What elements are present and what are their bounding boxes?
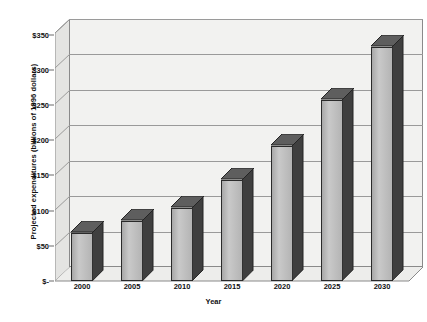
plot-area [55,19,423,281]
bar-2015[interactable] [221,169,243,281]
x-tick-label-2000: 2000 [74,282,91,291]
bar-2030[interactable] [371,36,393,281]
y-tick-label-350: $350 [5,30,49,39]
bar-2020[interactable] [271,135,293,281]
y-tickmark-250 [49,105,54,106]
bar-front-face [121,221,143,281]
y-tickmark-50 [49,245,54,246]
bar-2005[interactable] [121,210,143,281]
bar-front-face [271,146,293,281]
x-tick-label-2030: 2030 [374,282,391,291]
x-tick-label-2025: 2025 [324,282,341,291]
plot-side-wall [55,19,70,281]
y-tick-label-50: $50 [5,241,49,250]
bar-chart: Projected expenditures (billions of 1996… [0,0,427,322]
x-tick-label-2020: 2020 [274,282,291,291]
bar-2010[interactable] [171,197,193,281]
y-tickmark-200 [49,140,54,141]
y-tick-label-200: $200 [5,136,49,145]
bar-front-face [71,233,93,281]
y-tick-label-150: $150 [5,171,49,180]
y-axis-tick-labels: $- $50 $100 $150 $200 $250 $300 $350 [0,0,49,322]
gridline-350 [70,19,423,20]
x-tick-label-2010: 2010 [174,282,191,291]
y-tickmark-100 [49,210,54,211]
bar-front-face [371,47,393,281]
bar-2000[interactable] [71,222,93,281]
bar-front-face [321,100,343,281]
bar-front-face [221,180,243,281]
x-tick-label-2015: 2015 [224,282,241,291]
y-tick-label-300: $300 [5,65,49,74]
y-tickmark-0 [49,281,54,282]
y-tickmark-350 [49,34,54,35]
y-tick-label-100: $100 [5,206,49,215]
x-tick-label-2005: 2005 [124,282,141,291]
y-tick-label-0: $- [5,277,49,286]
y-tick-label-250: $250 [5,101,49,110]
y-tickmark-150 [49,175,54,176]
x-axis-title: Year [0,297,427,306]
bar-front-face [171,208,193,281]
y-tickmark-300 [49,69,54,70]
bar-2025[interactable] [321,89,343,281]
